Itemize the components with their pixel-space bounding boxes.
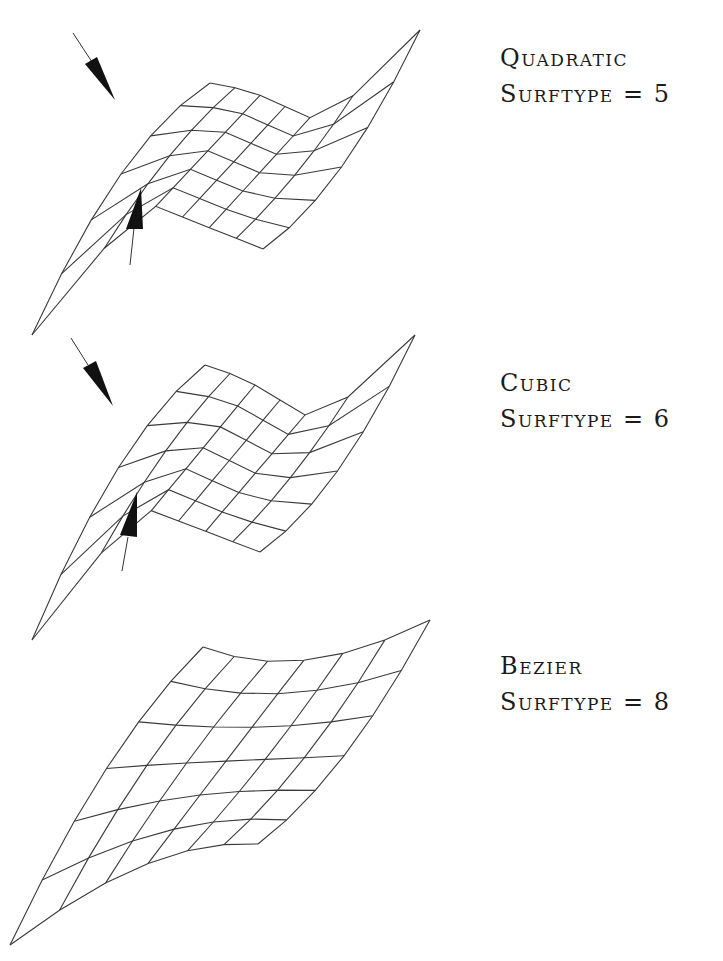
arrow-icon-top [71, 338, 113, 406]
surface-name: Bezier [500, 648, 670, 684]
cubic-surface-mesh [0, 330, 480, 650]
bezier-label: Bezier Surftype = 8 [500, 648, 670, 720]
quadratic-label: Quadratic Surftype = 5 [500, 40, 670, 112]
surface-name: Quadratic [500, 40, 670, 76]
quadratic-surface-mesh [0, 0, 480, 340]
cubic-label: Cubic Surftype = 6 [500, 365, 670, 437]
arrow-icon-bottom [120, 492, 137, 571]
arrow-icon-top [73, 33, 115, 100]
arrow-icon-bottom [126, 188, 143, 265]
surface-name: Cubic [500, 365, 670, 401]
surftype-value: Surftype = 5 [500, 76, 670, 112]
surftype-value: Surftype = 6 [500, 401, 670, 437]
bezier-surface-mesh [0, 620, 480, 961]
surftype-value: Surftype = 8 [500, 684, 670, 720]
